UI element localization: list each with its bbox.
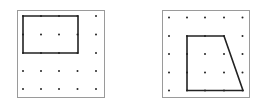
grid-dot bbox=[242, 90, 244, 92]
grid-dot bbox=[204, 53, 206, 55]
grid-dot bbox=[95, 88, 97, 90]
grid-dot bbox=[186, 53, 188, 55]
dot-grid-diagrams bbox=[0, 0, 265, 108]
grid-dot bbox=[223, 53, 225, 55]
grid-dot bbox=[168, 90, 170, 92]
grid-dot bbox=[242, 53, 244, 55]
grid-dot bbox=[77, 15, 79, 17]
grid-dot bbox=[22, 70, 24, 72]
grid-dot bbox=[223, 90, 225, 92]
grid-dot bbox=[58, 34, 60, 36]
rectangle-on-dot-grid-outline bbox=[23, 16, 78, 53]
grid-dot bbox=[95, 70, 97, 72]
grid-dot bbox=[40, 34, 42, 36]
grid-dot bbox=[77, 34, 79, 36]
grid-dot bbox=[40, 70, 42, 72]
grid-dot bbox=[186, 90, 188, 92]
trapezoid-on-dot-grid-outline bbox=[187, 36, 243, 91]
rectangle-figure bbox=[18, 11, 105, 98]
grid-dot bbox=[22, 34, 24, 36]
grid-dot bbox=[223, 72, 225, 74]
grid-dot bbox=[204, 90, 206, 92]
grid-dot bbox=[242, 72, 244, 74]
grid-dot bbox=[58, 15, 60, 17]
grid-dot bbox=[168, 53, 170, 55]
grid-dot bbox=[22, 15, 24, 17]
grid-dot bbox=[77, 70, 79, 72]
grid-dot bbox=[58, 52, 60, 54]
grid-dot bbox=[242, 35, 244, 37]
grid-dot bbox=[242, 17, 244, 19]
grid-dot bbox=[95, 15, 97, 17]
grid-dot bbox=[40, 15, 42, 17]
grid-dot bbox=[204, 17, 206, 19]
grid-dot bbox=[186, 72, 188, 74]
grid-dot bbox=[95, 34, 97, 36]
grid-dot bbox=[186, 35, 188, 37]
grid-dot bbox=[58, 88, 60, 90]
grid-frame bbox=[18, 11, 105, 98]
grid-dot bbox=[186, 17, 188, 19]
grid-dot bbox=[168, 72, 170, 74]
grid-dot bbox=[168, 17, 170, 19]
grid-dot bbox=[77, 88, 79, 90]
grid-dot bbox=[95, 52, 97, 54]
grid-dot bbox=[22, 88, 24, 90]
grid-dot bbox=[223, 17, 225, 19]
grid-dot bbox=[58, 70, 60, 72]
grid-dot bbox=[22, 52, 24, 54]
grid-dot bbox=[168, 35, 170, 37]
grid-dot bbox=[40, 88, 42, 90]
grid-dot bbox=[204, 72, 206, 74]
grid-dot bbox=[204, 35, 206, 37]
grid-dot bbox=[223, 35, 225, 37]
trapezoid-figure bbox=[163, 11, 250, 98]
grid-dot bbox=[40, 52, 42, 54]
grid-dot bbox=[77, 52, 79, 54]
